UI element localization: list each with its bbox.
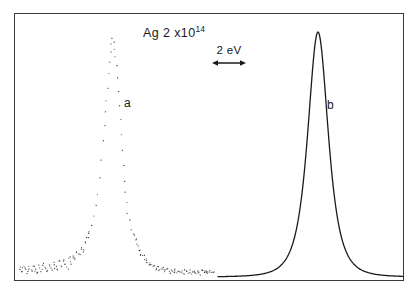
- series-a-scatter: [19, 38, 214, 276]
- scale-bar-group: 2 eV: [203, 44, 255, 68]
- scale-bar-label: 2 eV: [203, 44, 255, 56]
- curve-b-label: b: [327, 98, 334, 112]
- title-text: Ag 2 x10: [143, 26, 196, 40]
- series-b-curve: [218, 32, 403, 277]
- curve-a-label: a: [124, 96, 131, 110]
- figure-title: Ag 2 x1014: [143, 24, 205, 40]
- figure-root: Ag 2 x1014 2 eV a b: [0, 0, 417, 293]
- scale-bar-arrow-icon: [203, 58, 255, 68]
- title-exponent: 14: [196, 24, 205, 34]
